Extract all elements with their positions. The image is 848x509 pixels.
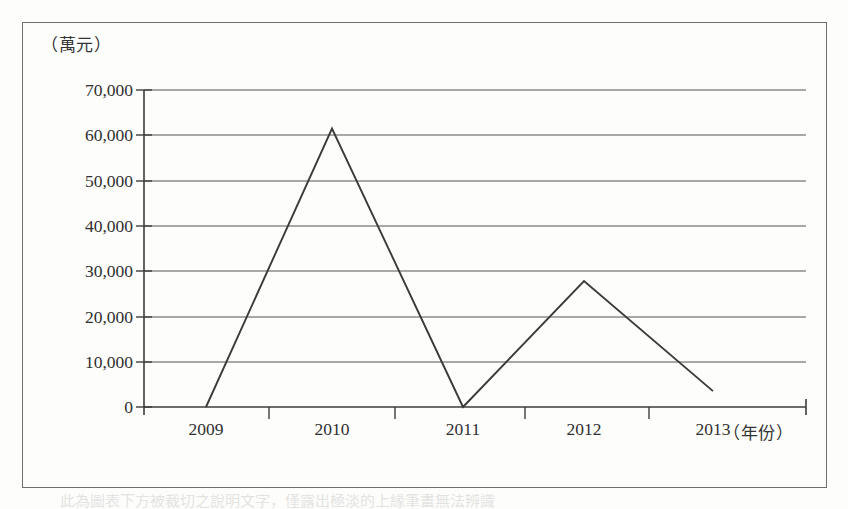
- plot-canvas: [23, 23, 828, 489]
- cut-off-caption: 此為圖表下方被裁切之說明文字，僅露出極淡的上緣筆畫無法辨識: [60, 494, 820, 509]
- gridlines: [144, 90, 806, 362]
- caption-text: 此為圖表下方被裁切之說明文字，僅露出極淡的上緣筆畫無法辨識: [60, 494, 820, 509]
- scanned-page-background: （萬元） 70,000 60,000 50,000 40,000 30,000 …: [0, 0, 848, 509]
- figure-frame: （萬元） 70,000 60,000 50,000 40,000 30,000 …: [22, 22, 827, 488]
- x-axis-ticks: [269, 407, 649, 419]
- data-series-line: [206, 129, 713, 408]
- line-chart: （萬元） 70,000 60,000 50,000 40,000 30,000 …: [23, 23, 828, 489]
